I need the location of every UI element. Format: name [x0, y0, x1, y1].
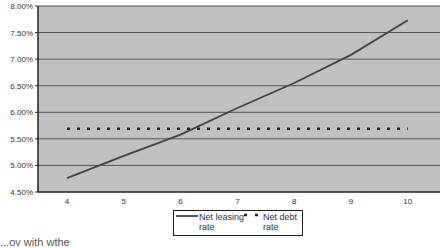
- solid-line-legend-icon: [176, 214, 198, 218]
- svg-text:5.50%: 5.50%: [10, 135, 33, 144]
- svg-text:4: 4: [65, 197, 70, 206]
- legend-label: Net debt: [263, 212, 297, 222]
- svg-text:5: 5: [122, 197, 127, 206]
- svg-text:7: 7: [235, 197, 240, 206]
- legend-item-net-leasing-rate: Net leasing rate: [199, 212, 244, 232]
- dotted-line-legend-icon: [244, 213, 260, 217]
- svg-text:6.00%: 6.00%: [10, 108, 33, 117]
- x-tick-labels: 45678910: [65, 197, 413, 206]
- svg-text:7.50%: 7.50%: [10, 29, 33, 38]
- svg-text:6.50%: 6.50%: [10, 82, 33, 91]
- legend-label: Net leasing: [199, 212, 244, 222]
- chart-legend: Net leasing rate Net debt rate: [173, 210, 303, 236]
- y-tick-labels: 4.50%5.00%5.50%6.00%6.50%7.00%7.50%8.00%: [10, 2, 38, 197]
- svg-text:4.50%: 4.50%: [10, 188, 33, 197]
- line-chart: 4.50%5.00%5.50%6.00%6.50%7.00%7.50%8.00%…: [0, 0, 441, 210]
- svg-text:8: 8: [292, 197, 297, 206]
- svg-text:7.00%: 7.00%: [10, 55, 33, 64]
- cropped-caption-text: ...ov with wthe: [0, 236, 70, 248]
- svg-text:6: 6: [178, 197, 183, 206]
- svg-text:5.00%: 5.00%: [10, 161, 33, 170]
- legend-label: rate: [263, 222, 297, 232]
- legend-label: rate: [199, 222, 244, 232]
- legend-item-net-debt-rate: Net debt rate: [263, 212, 297, 232]
- svg-text:10: 10: [403, 197, 412, 206]
- plot-area: [38, 6, 440, 192]
- svg-text:8.00%: 8.00%: [10, 2, 33, 11]
- svg-text:9: 9: [349, 197, 354, 206]
